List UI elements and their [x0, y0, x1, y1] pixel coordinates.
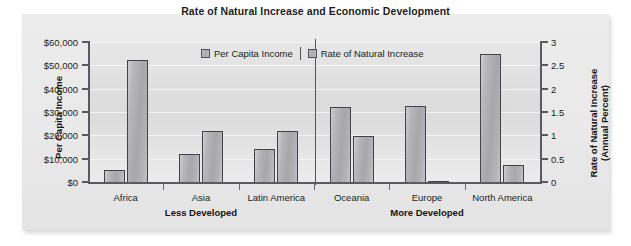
group-label: Less Developed: [165, 207, 237, 218]
left-axis-tick-label: $60,000: [44, 37, 78, 48]
x-axis-tick: [389, 184, 390, 190]
right-axis-tick: [542, 41, 548, 43]
legend-swatch-icon: [201, 49, 210, 58]
gridline: [88, 65, 540, 66]
bar-rate-of-natural-increase: [202, 131, 223, 182]
right-axis-tick-label: 1.5: [551, 107, 564, 118]
category-label: Europe: [412, 192, 443, 203]
right-axis-title-line1: Rate of Natural Increase: [588, 43, 599, 203]
category-label: Asia: [192, 192, 210, 203]
x-axis-tick: [314, 184, 315, 190]
legend-item-rate-of-natural-increase[interactable]: Rate of Natural Increase: [301, 48, 431, 59]
left-axis-tick-label: $0: [67, 177, 78, 188]
right-axis-tick: [542, 134, 548, 136]
bar-per-capita-income: [254, 149, 275, 182]
left-axis-tick: [82, 111, 88, 113]
right-axis-tick-label: 1: [551, 130, 556, 141]
legend-item-per-capita-income[interactable]: Per Capita Income: [194, 48, 300, 59]
right-axis-tick: [542, 88, 548, 90]
bar-per-capita-income: [480, 54, 501, 182]
gridline: [88, 159, 540, 160]
right-axis-tick: [542, 111, 548, 113]
group-divider: [315, 39, 316, 185]
x-axis-tick: [163, 184, 164, 190]
left-axis-tick: [82, 88, 88, 90]
bar-per-capita-income: [104, 170, 125, 182]
gridline: [88, 112, 540, 113]
plot-area: [88, 42, 540, 182]
bar-rate-of-natural-increase: [277, 131, 298, 182]
left-axis-line: [88, 41, 90, 183]
right-axis-tick-label: 0.5: [551, 153, 564, 164]
chart-legend: Per Capita Income Rate of Natural Increa…: [194, 47, 431, 60]
right-axis-tick: [542, 181, 548, 183]
bar-rate-of-natural-increase: [503, 165, 524, 182]
category-label: Oceania: [334, 192, 369, 203]
left-axis-tick: [82, 41, 88, 43]
chart-figure: Rate of Natural Increase and Economic De…: [0, 0, 631, 246]
left-axis-tick: [82, 64, 88, 66]
left-axis-tick: [82, 158, 88, 160]
x-axis-line: [88, 182, 542, 184]
bar-rate-of-natural-increase: [353, 136, 374, 182]
group-label: More Developed: [390, 207, 463, 218]
gridline: [88, 135, 540, 136]
gridline: [88, 89, 540, 90]
category-label: Africa: [114, 192, 138, 203]
legend-swatch-icon: [308, 49, 317, 58]
bar-per-capita-income: [330, 107, 351, 182]
right-axis-title: Rate of Natural Increase (Annual Percent…: [588, 43, 610, 203]
bar-rate-of-natural-increase: [127, 60, 148, 182]
left-axis-title: Per Capita Income: [53, 48, 64, 188]
bar-per-capita-income: [179, 154, 200, 182]
chart-title: Rate of Natural Increase and Economic De…: [0, 5, 631, 17]
bar-per-capita-income: [405, 106, 426, 182]
right-axis-tick: [542, 64, 548, 66]
right-axis-tick-label: 3: [551, 37, 556, 48]
legend-label: Per Capita Income: [214, 48, 293, 59]
left-axis-tick: [82, 181, 88, 183]
x-axis-tick: [465, 184, 466, 190]
category-label: North America: [472, 192, 532, 203]
right-axis-tick-label: 2.5: [551, 60, 564, 71]
legend-label: Rate of Natural Increase: [321, 48, 424, 59]
gridline: [88, 42, 540, 43]
right-axis-tick-label: 0: [551, 177, 556, 188]
category-label: Latin America: [248, 192, 306, 203]
right-axis-tick: [542, 158, 548, 160]
x-axis-tick: [239, 184, 240, 190]
right-axis-title-line2: (Annual Percent): [599, 43, 610, 203]
right-axis-tick-label: 2: [551, 83, 556, 94]
left-axis-tick: [82, 134, 88, 136]
